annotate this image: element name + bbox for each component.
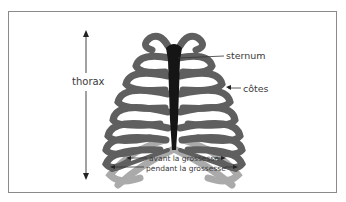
before-pregnancy-label: avant la grossesse: [149, 154, 219, 163]
thorax-arrow: [83, 30, 89, 180]
cotes-label: côtes: [243, 83, 269, 94]
sternum-label: sternum: [226, 50, 266, 61]
thorax-label: thorax: [72, 76, 105, 87]
during-pregnancy-label: pendant la grossesse: [146, 164, 226, 173]
